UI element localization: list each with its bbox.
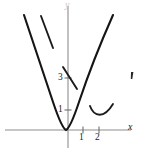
math-figure: x y 1 2 1 3 (0, 0, 147, 154)
graph-canvas (0, 0, 147, 154)
y-tick-label-3: 3 (58, 73, 63, 83)
stray-ink-speck (131, 72, 134, 79)
y-axis-label: y (65, 0, 69, 10)
arc-fragment-right (90, 104, 113, 115)
y-tick-label-1: 1 (58, 105, 63, 115)
x-axis-label: x (128, 122, 132, 132)
x-tick-label-2: 2 (95, 133, 100, 143)
x-tick-label-1: 1 (79, 133, 84, 143)
line-fragment-upper-left (41, 16, 53, 48)
